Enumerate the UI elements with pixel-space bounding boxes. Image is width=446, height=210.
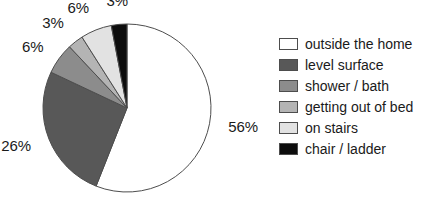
legend-swatch (279, 80, 298, 92)
legend-item[interactable]: outside the home (279, 33, 443, 54)
legend-swatch (279, 59, 298, 71)
legend-swatch (279, 101, 298, 113)
pie-slice-group (43, 24, 211, 192)
pie-chart-figure: 56%26%6%3%6%3% outside the homelevel sur… (0, 0, 446, 210)
legend-item[interactable]: shower / bath (279, 75, 443, 96)
legend-item-label: getting out of bed (305, 100, 413, 114)
legend-item[interactable]: chair / ladder (279, 138, 443, 159)
pie-percent-label: 6% (22, 38, 44, 55)
legend-item-label: shower / bath (305, 79, 389, 93)
legend-swatch (279, 143, 298, 155)
legend-item-label: outside the home (305, 37, 412, 51)
legend-item-label: on stairs (305, 121, 358, 135)
legend-item-label: level surface (305, 58, 384, 72)
chart-legend: outside the homelevel surfaceshower / ba… (279, 33, 443, 159)
pie-percent-label: 6% (67, 0, 89, 16)
legend-swatch (279, 122, 298, 134)
legend-item[interactable]: on stairs (279, 117, 443, 138)
pie-percent-label: 26% (1, 137, 31, 154)
legend-item[interactable]: getting out of bed (279, 96, 443, 117)
legend-item-label: chair / ladder (305, 142, 386, 156)
legend-swatch (279, 38, 298, 50)
pie-percent-label: 56% (228, 118, 258, 135)
pie-percent-label: 3% (106, 0, 128, 9)
legend-item[interactable]: level surface (279, 54, 443, 75)
pie-percent-label: 3% (42, 14, 64, 31)
